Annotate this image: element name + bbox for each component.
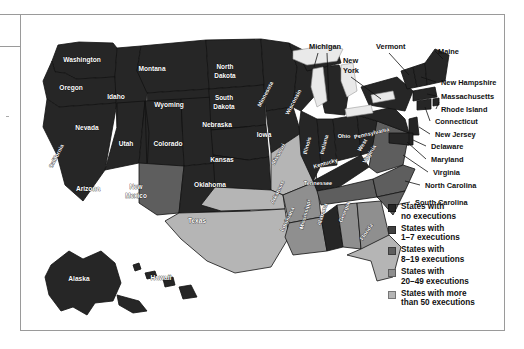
legend-item-label: States with1–7 executions	[401, 224, 460, 243]
state-north-dakota[interactable]	[206, 39, 264, 89]
legend-item[interactable]: States with1–7 executions	[388, 224, 508, 243]
state-label-alaska: Alaska	[68, 275, 90, 282]
state-label-kansas: Kansas	[210, 156, 234, 163]
state-label-utah: Utah	[119, 140, 134, 147]
legend-swatch-icon	[388, 226, 396, 234]
state-label-south: South	[215, 94, 233, 101]
state-hawaii[interactable]	[133, 263, 197, 299]
legend-item[interactable]: States with20–49 executions	[388, 267, 508, 286]
legend-line-1: States with	[401, 267, 469, 277]
state-label-nebraska: Nebraska	[202, 121, 232, 128]
state-label-ohio: Ohio	[338, 133, 351, 139]
callout-label-north-carolina: North Carolina	[425, 181, 477, 190]
callout-label-virginia: Virginia	[433, 168, 461, 177]
callout-label-delaware: Delaware	[431, 142, 463, 151]
legend-item[interactable]: States with morethan 50 executions	[388, 289, 508, 308]
leader-delaware	[413, 140, 426, 146]
legend-line-2: 20–49 executions	[401, 277, 469, 287]
legend-item-label: States with20–49 executions	[401, 267, 469, 286]
callout-label-new-hampshire: New Hampshire	[441, 78, 496, 87]
state-texas[interactable]	[165, 209, 289, 273]
state-label-texas: Texas	[188, 217, 207, 224]
state-maryland[interactable]	[389, 133, 409, 145]
legend-item[interactable]: States withno executions	[388, 202, 508, 221]
legend-item-label: States withno executions	[401, 202, 456, 221]
state-label-oklahoma: Oklahoma	[194, 181, 226, 188]
callout-label-maine: Maine	[438, 47, 459, 56]
leader-vermont	[389, 53, 409, 75]
legend-item-label: States with morethan 50 executions	[401, 289, 475, 308]
state-label-nevada: Nevada	[75, 124, 99, 131]
state-label-mexico: Mexico	[125, 192, 147, 199]
state-utah[interactable]	[139, 99, 184, 171]
legend-line-2: than 50 executions	[401, 298, 475, 308]
legend-swatch-icon	[388, 269, 396, 277]
legend-line-2: 1–7 executions	[401, 233, 460, 243]
state-connecticut[interactable]	[417, 99, 431, 110]
state-label-idaho: Idaho	[107, 93, 125, 100]
legend-swatch-icon	[388, 291, 396, 299]
callout-label-connecticut: Connecticut	[435, 117, 478, 126]
callout-label-michigan: Michigan	[309, 42, 342, 51]
state-label-new: New	[129, 183, 142, 190]
legend-line-2: no executions	[401, 212, 456, 222]
legend-item[interactable]: States with8–19 executions	[388, 245, 508, 264]
legend-line-1: States with more	[401, 289, 475, 299]
state-label-washington: Washington	[63, 56, 100, 64]
callout-label-massachusetts: Massachusetts	[441, 92, 494, 101]
callout-label-vermont: Vermont	[376, 42, 406, 51]
page-margin-tick	[6, 116, 9, 117]
page-rule-second	[0, 46, 21, 47]
callout-label-york: York	[343, 66, 360, 75]
state-label-dakota: Dakota	[213, 103, 235, 110]
page-rule-top	[0, 14, 21, 15]
state-label-colorado: Colorado	[154, 140, 183, 147]
state-label-wyoming: Wyoming	[154, 101, 184, 109]
state-label-iowa: Iowa	[257, 131, 272, 138]
state-arizona[interactable]	[139, 163, 184, 215]
legend-swatch-icon	[388, 204, 396, 212]
legend-line-2: 8–19 executions	[401, 255, 464, 265]
state-label-tennessee: Tennessee	[304, 180, 333, 186]
callout-label-maryland: Maryland	[431, 155, 464, 164]
state-label-dakota: Dakota	[214, 72, 236, 79]
map-legend: States withno executionsStates with1–7 e…	[388, 202, 508, 310]
callout-label-new-jersey: New Jersey	[435, 130, 477, 139]
leader-new-jersey	[419, 127, 430, 134]
legend-item-label: States with8–19 executions	[401, 245, 464, 264]
callout-label-rhode-island: Rhode Island	[441, 105, 488, 114]
state-label-oregon: Oregon	[59, 84, 82, 92]
legend-line-1: States with	[401, 202, 456, 212]
state-alaska[interactable]	[45, 251, 147, 315]
state-label-arizona: Arizona	[76, 185, 101, 192]
legend-line-1: States with	[401, 245, 464, 255]
state-label-montana: Montana	[138, 65, 165, 72]
state-label-north: North	[216, 63, 233, 70]
callout-label-new: New	[343, 56, 358, 65]
legend-line-1: States with	[401, 224, 460, 234]
state-new-jersey[interactable]	[409, 117, 419, 135]
state-label-hawaii: Hawaii	[151, 274, 172, 281]
legend-swatch-icon	[388, 247, 396, 255]
